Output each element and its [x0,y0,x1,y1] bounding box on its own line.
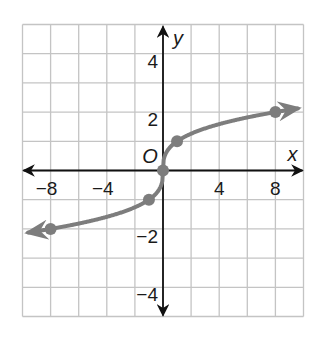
x-tick-label: 8 [270,178,281,199]
y-tick-label: −4 [136,284,158,305]
x-tick-label: 4 [214,178,225,199]
x-tick-label: −8 [36,178,58,199]
data-point [45,223,57,235]
data-point [171,135,183,147]
data-point [269,106,281,118]
y-tick-label: −2 [136,226,158,247]
y-tick-label: 2 [147,109,158,130]
data-point [143,194,155,206]
cube-root-graph: −8−44842−2−4xyO [0,0,314,341]
origin-label: O [142,145,158,167]
y-tick-label: 4 [147,51,158,72]
data-point [157,165,169,177]
tick-labels: −8−44842−2−4xyO [36,27,299,306]
x-tick-label: −4 [92,178,114,199]
y-axis-label: y [171,27,184,49]
x-axis-label: x [287,143,299,165]
